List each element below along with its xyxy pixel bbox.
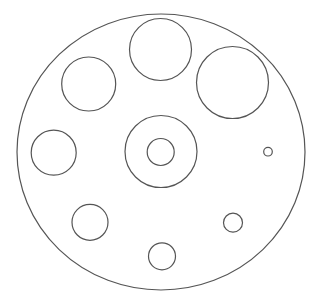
circle-diagram bbox=[0, 0, 318, 306]
background bbox=[0, 0, 318, 306]
